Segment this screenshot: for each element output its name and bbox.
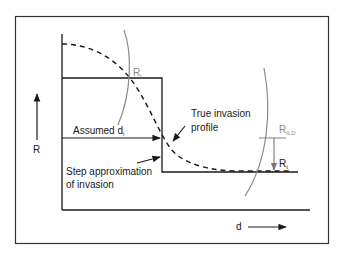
true-profile-label-line1: True invasion [191, 108, 251, 119]
rt-label: Rt [279, 158, 288, 170]
ri-label: Ri [133, 67, 142, 79]
true-profile-arrow [173, 126, 185, 141]
true-invasion-profile-curve [62, 44, 292, 171]
x-axis-label: d [236, 221, 242, 232]
assumed-di-label: Assumed di [73, 125, 124, 137]
y-axis-label: R [33, 144, 40, 155]
rt-boundary-arc [245, 68, 268, 196]
true-profile-label-line2: profile [191, 122, 219, 133]
step-approximation-label-line1: Step approximation [66, 166, 152, 177]
invasion-profile-diagram: Ri Assumed di Step approximation of inva… [0, 0, 344, 256]
rild-label: RILD [279, 124, 296, 136]
step-approximation-label-line2: of invasion [66, 179, 114, 190]
step-approximation-arrow [137, 157, 160, 163]
